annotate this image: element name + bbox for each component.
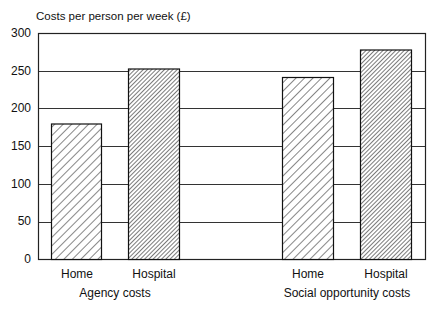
x-label-social-home: Home [268, 267, 348, 281]
group-label-social: Social opportunity costs [247, 286, 444, 300]
x-label-agency-home: Home [37, 267, 117, 281]
bar-social-hospital [361, 50, 412, 260]
bar-social-home [283, 78, 334, 260]
bars [52, 50, 412, 260]
bar-agency-home [52, 124, 102, 260]
bar-agency-hospital [129, 69, 180, 260]
x-label-agency-hospital: Hospital [114, 267, 194, 281]
x-label-social-hospital: Hospital [346, 267, 426, 281]
group-label-agency: Agency costs [15, 286, 215, 300]
